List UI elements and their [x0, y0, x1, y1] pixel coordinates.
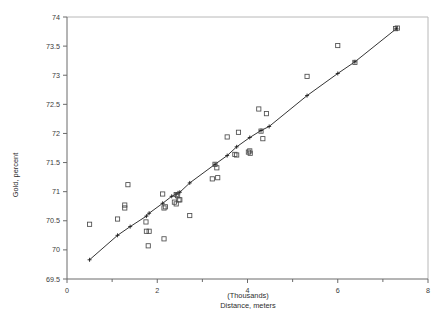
y-tick-label: 72 [52, 129, 60, 138]
data-point-marker [163, 205, 167, 209]
plot-frame [67, 17, 428, 279]
data-point-marker [123, 203, 127, 207]
data-point-series [87, 26, 399, 248]
x-tick-label: 8 [426, 286, 430, 295]
y-tick-label: 70.5 [46, 216, 60, 225]
data-point-marker [144, 220, 148, 224]
chart-canvas: 69.57070.57171.57272.57373.574 02468 Gol… [0, 0, 447, 320]
data-point-marker [225, 135, 229, 139]
y-axis-title: Gold, percent [11, 153, 20, 197]
x-tick-label: 2 [155, 286, 159, 295]
data-point-marker [236, 130, 240, 134]
data-point-marker [115, 217, 119, 221]
y-tick-label: 74 [52, 13, 60, 22]
y-tick-label: 72.5 [46, 100, 60, 109]
data-point-marker [126, 183, 130, 187]
data-point-marker [264, 112, 268, 116]
data-point-marker [162, 237, 166, 241]
fitted-line-series [88, 27, 399, 262]
y-tick-label: 73.5 [46, 42, 60, 51]
x-axis-units-label: (Thousands) [227, 291, 269, 300]
y-tick-label: 70 [52, 245, 60, 254]
data-point-marker [123, 206, 127, 210]
y-tick-group: 69.57070.57171.57272.57373.574 [46, 13, 67, 284]
data-point-marker [261, 137, 265, 141]
data-point-marker [257, 107, 261, 111]
data-point-marker [87, 222, 91, 226]
data-point-marker [336, 43, 340, 47]
y-tick-label: 69.5 [46, 275, 60, 284]
data-point-marker [146, 244, 150, 248]
data-point-marker [305, 74, 309, 78]
scatter-chart: 69.57070.57171.57272.57373.574 02468 Gol… [0, 0, 447, 320]
data-point-marker [210, 177, 214, 181]
y-tick-label: 71 [52, 187, 60, 196]
data-point-marker [144, 229, 148, 233]
data-point-marker [188, 213, 192, 217]
data-point-marker [161, 192, 165, 196]
regression-line [90, 29, 397, 260]
data-point-marker [216, 176, 220, 180]
x-axis-title: Distance, meters [220, 301, 276, 310]
data-point-marker [147, 229, 151, 233]
y-tick-label: 73 [52, 71, 60, 80]
x-tick-label: 6 [336, 286, 340, 295]
data-point-marker [162, 206, 166, 210]
y-tick-label: 71.5 [46, 158, 60, 167]
x-tick-label: 0 [65, 286, 69, 295]
